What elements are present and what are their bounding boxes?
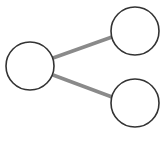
node-circle-bottom-right [111, 79, 159, 127]
node-circle-top-right [111, 7, 159, 55]
connector-line-upper [53, 37, 112, 58]
share-icon-canvas [0, 0, 168, 167]
connector-line-lower [53, 75, 112, 97]
share-icon [0, 0, 168, 167]
node-circle-left [6, 42, 54, 90]
